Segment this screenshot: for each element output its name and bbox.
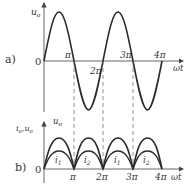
tick-b-2pi: 2π [95,172,109,182]
panel-a-label: a) [5,53,16,66]
curve-label-i1-a: i1 [55,155,62,166]
curve-label-i1-b: i1 [114,155,121,166]
panel-b-y-label: io,uo [16,124,34,134]
tick-3pi: 3π [120,50,133,60]
panel-b-origin: 0 [35,164,41,175]
panel-a: a) 0 uo π 2π 3π 4π ωt [5,3,184,112]
waveform-diagram: a) 0 uo π 2π 3π 4π ωt b) 0 uo io,uo i1 i… [0,0,190,191]
panel-a-y-label: uo [31,7,41,18]
panel-b: b) 0 uo io,uo i1 i2 i1 i2 π 2π 3π 4π ωt [15,116,183,183]
panel-b-x-label: ωt [171,172,182,182]
curve-label-i2-a: i2 [84,155,91,166]
tick-2pi: 2π [89,66,103,76]
tick-b-4pi: 4π [154,172,168,182]
tick-b-pi: π [69,172,77,182]
panel-b-uo-label: uo [53,116,62,127]
tick-pi: π [64,50,72,60]
panel-a-x-label: ωt [173,63,184,73]
panel-a-origin: 0 [35,56,41,67]
panel-b-label: b) [15,161,26,174]
tick-4pi: 4π [153,50,167,60]
curve-label-i2-b: i2 [143,155,150,166]
tick-b-3pi: 3π [126,172,139,182]
